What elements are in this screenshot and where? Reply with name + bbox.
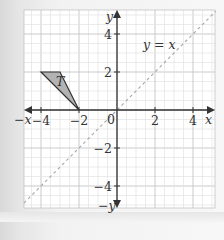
- y-axis-label: y: [105, 9, 114, 24]
- x-tick-label: −4: [32, 113, 50, 128]
- y-tick-label: −2: [94, 141, 112, 156]
- y-tick-label: −4: [94, 179, 112, 194]
- origin-label: 0: [107, 112, 115, 127]
- line-y-equals-x-label: y = x: [142, 37, 176, 52]
- x-axis-label: x: [205, 112, 212, 127]
- y-tick-label: 4: [104, 27, 112, 42]
- x-tick-label: 2: [151, 113, 159, 128]
- grid-panel: [24, 10, 215, 208]
- x-tick-label: 4: [189, 113, 197, 128]
- x-tick-label: −2: [70, 113, 88, 128]
- coordinate-plane: T −4−22442−2−4 x −x y −y 0 y = x: [0, 0, 224, 222]
- x-axis-negative-label: −x: [14, 112, 32, 127]
- y-axis-negative-label: −y: [98, 198, 116, 213]
- y-tick-label: 2: [104, 65, 112, 80]
